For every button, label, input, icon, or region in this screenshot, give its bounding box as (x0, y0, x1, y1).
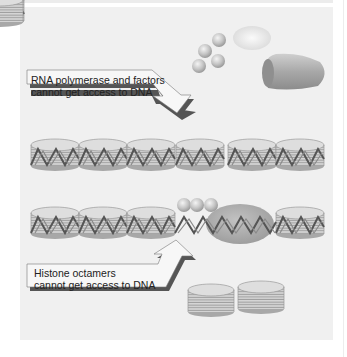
bottom-callout-line-2: cannot get access to DNA (34, 279, 155, 291)
top-callout-line-1: RNA polymerase and factors (31, 74, 165, 86)
top-callout-line-2: cannot get access to DNA (31, 86, 165, 98)
rna-polymerase (233, 26, 325, 90)
chromatin-diagram (0, 0, 347, 357)
bottom-callout-line-1: Histone octamers (34, 267, 155, 279)
nucleosome-row-2 (31, 207, 324, 239)
bottom-callout-label: Histone octamers cannot get access to DN… (34, 267, 155, 291)
top-callout-label: RNA polymerase and factors cannot get ac… (31, 74, 165, 98)
transcription-factor-spheres (192, 33, 226, 73)
